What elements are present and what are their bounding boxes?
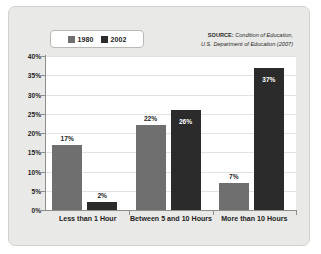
source-publication: Condition of Education, xyxy=(234,32,293,38)
source-line-1: SOURCE: Condition of Education, xyxy=(173,31,293,40)
x-axis-category-label: Between 5 and 10 Hours xyxy=(130,215,212,223)
y-axis-tick-label: 0% xyxy=(11,207,41,214)
x-axis-tick xyxy=(213,210,214,215)
legend-label-1980: 1980 xyxy=(78,36,94,43)
chart-panel: 1980 2002 SOURCE: Condition of Education… xyxy=(8,6,310,246)
y-axis-tick-label: 15% xyxy=(11,149,41,156)
bar-value-label: 22% xyxy=(136,115,166,122)
bar-1980-3 xyxy=(219,183,249,210)
y-axis-tick-label: 20% xyxy=(11,130,41,137)
bar-value-label: 2% xyxy=(87,192,117,199)
bar-2002-3 xyxy=(254,68,284,210)
y-axis-tick-label: 30% xyxy=(11,91,41,98)
source-line-2-text: U.S. Department of Education (2007) xyxy=(201,41,293,47)
legend-swatch-1980 xyxy=(68,36,75,43)
source-lead: SOURCE: xyxy=(208,32,234,38)
y-axis-tick xyxy=(41,114,45,115)
bar-value-label: 7% xyxy=(219,173,249,180)
source-note: SOURCE: Condition of Education, U.S. Dep… xyxy=(173,31,293,48)
bar-2002-2 xyxy=(171,110,201,210)
y-axis-tick xyxy=(41,75,45,76)
y-axis-tick xyxy=(41,133,45,134)
source-line-2: U.S. Department of Education (2007) xyxy=(173,40,293,49)
gridline xyxy=(46,56,296,57)
legend-swatch-2002 xyxy=(101,36,108,43)
plot-background: 17%2%22%26%7%37% xyxy=(46,56,296,210)
y-axis-labels: 0%5%10%15%20%25%30%35%40% xyxy=(9,7,41,254)
y-axis-tick-label: 10% xyxy=(11,168,41,175)
y-axis-tick xyxy=(41,95,45,96)
chart-legend: 1980 2002 xyxy=(50,30,144,48)
y-axis-tick xyxy=(41,152,45,153)
y-axis-tick xyxy=(41,56,45,57)
bar-1980-1 xyxy=(52,145,82,210)
bar-value-label: 26% xyxy=(171,118,201,125)
bar-value-label: 37% xyxy=(254,76,284,83)
y-axis-tick xyxy=(41,210,45,211)
y-axis-line xyxy=(45,55,46,211)
legend-item-1980: 1980 xyxy=(68,36,94,43)
legend-item-2002: 2002 xyxy=(101,36,127,43)
bar-value-label: 17% xyxy=(52,135,82,142)
y-axis-tick-label: 25% xyxy=(11,110,41,117)
y-axis-tick-label: 35% xyxy=(11,72,41,79)
x-axis-category-label: Less than 1 Hour xyxy=(59,215,117,223)
bar-1980-2 xyxy=(136,125,166,210)
x-axis-tick xyxy=(129,210,130,215)
x-axis-category-label: More than 10 Hours xyxy=(221,215,287,223)
plot-area: 17%2%22%26%7%37% xyxy=(46,56,296,210)
x-axis-line xyxy=(45,210,296,211)
x-axis-tick xyxy=(296,210,297,215)
y-axis-tick xyxy=(41,191,45,192)
y-axis-tick-label: 5% xyxy=(11,187,41,194)
y-axis-tick-label: 40% xyxy=(11,53,41,60)
legend-label-2002: 2002 xyxy=(111,36,127,43)
y-axis-tick xyxy=(41,172,45,173)
bar-2002-1 xyxy=(87,202,117,210)
